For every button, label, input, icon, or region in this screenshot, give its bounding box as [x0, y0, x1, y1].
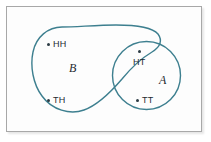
venn-diagram-figure: HH TH HT TT B A — [0, 0, 211, 142]
set-label-a: A — [159, 73, 166, 88]
point-label-th: TH — [53, 95, 65, 105]
point-label-ht: HT — [133, 57, 145, 67]
point-label-hh: HH — [53, 39, 66, 49]
venn-curves — [0, 0, 211, 142]
point-dot-tt — [136, 99, 139, 102]
point-dot-ht — [138, 50, 141, 53]
point-dot-hh — [47, 43, 50, 46]
point-dot-th — [47, 99, 50, 102]
point-label-tt: TT — [142, 95, 153, 105]
set-label-b: B — [69, 61, 76, 76]
